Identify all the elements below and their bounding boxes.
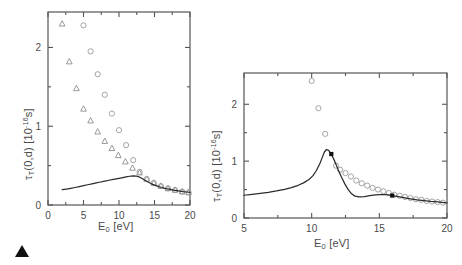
data-point-circle xyxy=(381,189,386,194)
data-point-circle xyxy=(131,157,136,162)
data-point-triangle xyxy=(74,85,80,90)
data-point-circle xyxy=(375,187,380,192)
theory-curve-path xyxy=(62,176,190,193)
right-plot-svg: 5101520012 xyxy=(196,55,462,240)
figure-root: τT(0,d) [10-16s] E0 [eV] 05101520012 τT(… xyxy=(0,0,462,265)
plot-frame xyxy=(244,73,447,218)
series-triangles xyxy=(59,21,191,195)
x-tick-label: 15 xyxy=(374,223,386,234)
y-tick-label: 0 xyxy=(35,200,41,211)
caption-triangle-icon xyxy=(14,244,30,258)
data-point-triangle xyxy=(59,21,65,26)
data-point-circle xyxy=(343,170,348,175)
x-tick-label: 10 xyxy=(306,223,318,234)
x-tick-label: 5 xyxy=(241,223,247,234)
left-plot-svg: 05101520012 xyxy=(0,0,225,225)
y-tick-label: 1 xyxy=(35,121,41,132)
x-tick-label: 20 xyxy=(441,223,453,234)
data-point-circle xyxy=(309,78,314,83)
data-point-triangle xyxy=(66,59,72,64)
data-point-circle xyxy=(116,128,121,133)
data-point-filled-square xyxy=(329,152,333,156)
x-tick-label: 10 xyxy=(113,210,125,221)
data-point-circle xyxy=(109,111,114,116)
y-tick-label: 1 xyxy=(231,156,237,167)
y-tick-label: 2 xyxy=(231,99,237,110)
data-point-circle xyxy=(95,72,100,77)
data-point-filled-square xyxy=(390,193,394,197)
data-point-triangle xyxy=(115,152,121,157)
data-point-circle xyxy=(323,131,328,136)
x-tick-label: 5 xyxy=(81,210,87,221)
data-point-triangle xyxy=(102,138,108,143)
data-point-circle xyxy=(102,92,107,97)
x-tick-label: 15 xyxy=(149,210,161,221)
y-tick-label: 2 xyxy=(35,42,41,53)
data-point-circle xyxy=(348,174,353,179)
y-tick-label: 0 xyxy=(231,213,237,224)
data-point-triangle xyxy=(95,129,101,134)
data-point-triangle xyxy=(123,159,129,164)
data-point-circle xyxy=(365,183,370,188)
plot-frame xyxy=(48,12,190,205)
chart-panel-right: τT(0,d) [10-16s] E0 [eV] 5101520012 xyxy=(196,55,462,265)
data-point-triangle xyxy=(130,165,136,170)
data-point-triangle xyxy=(88,118,94,123)
series-circles xyxy=(309,78,445,205)
chart-panel-left: τT(0,d) [10-16s] E0 [eV] 05101520012 xyxy=(0,0,225,240)
x-tick-label: 0 xyxy=(45,210,51,221)
series-circles xyxy=(81,23,191,195)
data-point-circle xyxy=(316,106,321,111)
series-theory-curve xyxy=(62,176,190,193)
data-point-circle xyxy=(124,143,129,148)
data-point-circle xyxy=(88,49,93,54)
data-point-circle xyxy=(359,181,364,186)
data-point-circle xyxy=(354,178,359,183)
data-point-circle xyxy=(370,185,375,190)
data-point-triangle xyxy=(81,106,87,111)
data-point-triangle xyxy=(109,145,115,150)
series-filled-markers xyxy=(329,152,394,198)
x-tick-label: 20 xyxy=(184,210,196,221)
data-point-circle xyxy=(81,23,86,28)
